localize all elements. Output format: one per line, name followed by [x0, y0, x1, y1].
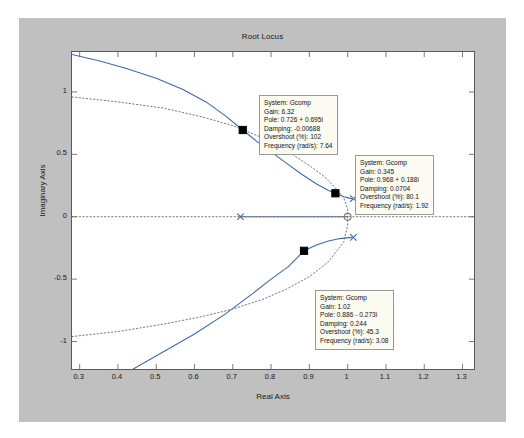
datatip-2[interactable]: System: Gcomp Gain: 0.345 Pole: 0.968 + … — [355, 155, 434, 215]
x-axis-label: Real Axis — [71, 392, 475, 401]
x-tick-label: 0.8 — [257, 372, 283, 381]
plot-title: Root Locus — [19, 32, 506, 41]
datatip-1-frequency: Frequency (rad/s): 7.64 — [264, 142, 333, 151]
x-tick-label: 1 — [334, 372, 360, 381]
y-tick-label: 1 — [43, 86, 67, 95]
screenshot-root: Root Locus 0.30.40.50.60.70.80.911.11.21… — [0, 0, 524, 438]
x-tick-label: 1.2 — [410, 372, 436, 381]
datatip-3-pole: Pole: 0.886 - 0.273i — [320, 311, 389, 320]
damping-grid-lower — [72, 217, 348, 337]
y-tick-label: -0.5 — [43, 273, 67, 282]
datatip-3-frequency: Frequency (rad/s): 3.08 — [320, 337, 389, 346]
x-tick-label: 1.1 — [372, 372, 398, 381]
datatip-2-gain: Gain: 0.345 — [360, 168, 429, 177]
datatip-1-damping: Damping: -0.00688 — [264, 125, 333, 134]
x-tick-label: 0.3 — [66, 372, 92, 381]
datatip-2-damping: Damping: 0.0704 — [360, 185, 429, 194]
datatip-1[interactable]: System: Gcomp Gain: 6.32 Pole: 0.726 + 0… — [259, 95, 338, 155]
datatip-1-pole: Pole: 0.726 + 0.695i — [264, 116, 333, 125]
datatip-3-system: System: Gcomp — [320, 294, 389, 303]
x-tick-label: 1.3 — [449, 372, 475, 381]
x-tick-label: 0.4 — [104, 372, 130, 381]
datatip-2-overshoot: Overshoot (%): 80.1 — [360, 193, 429, 202]
datatip-3-damping: Damping: 0.244 — [320, 320, 389, 329]
datatip-2-frequency: Frequency (rad/s): 1.92 — [360, 202, 429, 211]
datatip-1-overshoot: Overshoot (%): 102 — [264, 133, 333, 142]
selected-pole-3[interactable] — [300, 247, 307, 254]
datatip-3-gain: Gain: 1.02 — [320, 303, 389, 312]
datatip-3-overshoot: Overshoot (%): 45.3 — [320, 328, 389, 337]
datatip-3[interactable]: System: Gcomp Gain: 1.02 Pole: 0.886 - 0… — [315, 290, 394, 350]
y-axis-label: Imaginary Axis — [38, 151, 47, 231]
y-tick-label: 0 — [43, 211, 67, 220]
x-tick-label: 0.7 — [219, 372, 245, 381]
matlab-figure-window: Root Locus 0.30.40.50.60.70.80.911.11.21… — [19, 18, 506, 422]
y-tick-label: -1 — [43, 336, 67, 345]
datatip-2-pole: Pole: 0.968 + 0.188i — [360, 176, 429, 185]
x-tick-label: 0.9 — [295, 372, 321, 381]
datatip-1-gain: Gain: 6.32 — [264, 108, 333, 117]
selected-pole-2[interactable] — [332, 190, 339, 197]
selected-pole-1[interactable] — [239, 126, 246, 133]
datatip-2-system: System: Gcomp — [360, 159, 429, 168]
x-tick-label: 0.5 — [142, 372, 168, 381]
datatip-1-system: System: Gcomp — [264, 99, 333, 108]
x-tick-label: 0.6 — [181, 372, 207, 381]
y-tick-label: 0.5 — [43, 148, 67, 157]
